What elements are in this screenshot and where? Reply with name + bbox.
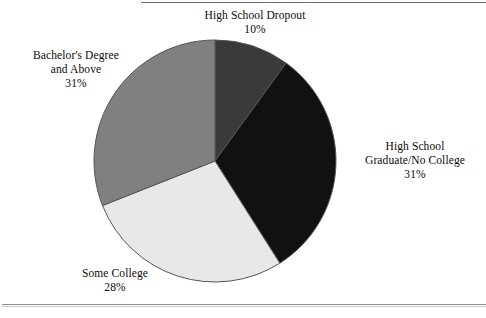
slice-label-high-school-graduate-no-college: High School Graduate/No College 31% — [344, 139, 486, 181]
slice-label-text-line2: and Above — [6, 62, 146, 76]
pie-chart-figure: High School Dropout 10% High School Grad… — [0, 0, 486, 318]
slice-label-text-line1: Bachelor's Degree — [6, 48, 146, 62]
slice-percent-text: 31% — [6, 76, 146, 90]
slice-percent-text: 10% — [180, 22, 330, 36]
slice-label-text-line2: Graduate/No College — [344, 153, 486, 167]
slice-label-text: Some College — [44, 266, 186, 280]
slice-label-text-line1: High School — [344, 139, 486, 153]
bottom-divider-rule-shadow — [2, 306, 486, 307]
slice-label-high-school-dropout: High School Dropout 10% — [180, 8, 330, 36]
slice-label-bachelors-degree-and-above: Bachelor's Degree and Above 31% — [6, 48, 146, 90]
bottom-divider-rule — [2, 304, 486, 305]
slice-percent-text: 31% — [344, 167, 486, 181]
slice-label-some-college: Some College 28% — [44, 266, 186, 294]
slice-label-text: High School Dropout — [180, 8, 330, 22]
slice-percent-text: 28% — [44, 280, 186, 294]
